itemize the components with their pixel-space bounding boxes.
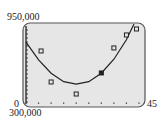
x-tick	[51, 103, 52, 104]
x-tick	[113, 103, 114, 104]
calculator-graph-screen	[0, 0, 164, 129]
x-tick	[76, 103, 77, 104]
x-tick	[138, 103, 139, 104]
data-point-marker	[134, 27, 138, 31]
data-point-marker	[112, 46, 116, 50]
x-tick	[126, 103, 127, 104]
data-point-marker	[124, 33, 128, 37]
data-point-marker	[49, 80, 53, 84]
data-point-marker	[39, 49, 43, 53]
x-tick	[88, 103, 89, 104]
data-point-marker	[74, 92, 78, 96]
x-tick	[38, 103, 39, 104]
x-tick	[63, 103, 64, 104]
data-point-marker	[99, 71, 103, 75]
x-tick	[101, 103, 102, 104]
